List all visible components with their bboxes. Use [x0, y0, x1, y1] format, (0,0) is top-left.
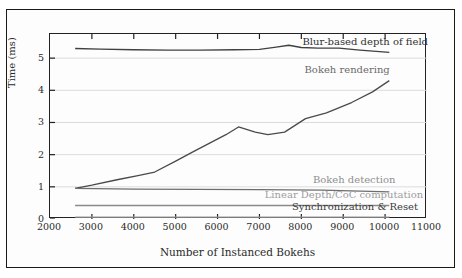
x-tick-label: 8000	[288, 221, 312, 232]
x-axis-label: Number of Instanced Bokehs	[49, 246, 426, 258]
y-axis-label: Time (ms)	[6, 37, 17, 88]
series-annotation: Linear Depth/CoC computation	[265, 189, 423, 200]
y-tick-label: 4	[38, 84, 44, 95]
y-tick-label: 1	[38, 180, 44, 191]
x-tick-label: 2000	[37, 221, 61, 232]
x-tick-label: 7000	[246, 221, 270, 232]
x-tick-label: 9000	[330, 221, 354, 232]
y-tick-label: 5	[38, 52, 44, 63]
plot-area-wrapper: 0123452000300040005000600070008000900010…	[49, 33, 426, 218]
series-annotation: Synchronization & Reset	[292, 201, 418, 212]
x-tick-label: 4000	[121, 221, 145, 232]
series-annotation: Bokeh detection	[313, 174, 396, 185]
y-tick-label: 2	[38, 148, 44, 159]
x-tick-label: 5000	[163, 221, 187, 232]
y-tick-label: 3	[38, 116, 44, 127]
x-tick-label: 10000	[369, 221, 399, 232]
x-tick-label: 3000	[79, 221, 103, 232]
figure-frame: Time (ms) 012345200030004000500060007000…	[6, 9, 455, 268]
series-annotation: Blur-based depth of field	[302, 36, 428, 47]
x-tick-label: 6000	[204, 221, 228, 232]
series-annotation: Bokeh rendering	[305, 64, 390, 75]
x-tick-label: 11000	[411, 221, 441, 232]
